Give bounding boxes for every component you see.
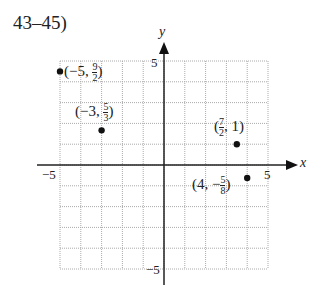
data-point — [244, 175, 250, 181]
data-point — [57, 68, 63, 74]
point-label-4: (4, −58) — [192, 175, 230, 196]
y-max-tick: 5 — [151, 55, 158, 71]
y-axis-arrow-icon — [159, 42, 169, 54]
x-max-tick: 5 — [264, 167, 271, 183]
y-min-tick: −5 — [146, 262, 160, 278]
x-min-tick: −5 — [42, 167, 56, 183]
point-label-1: (−5, 92) — [64, 62, 102, 83]
y-axis-label: y — [159, 24, 165, 40]
coordinate-plane — [0, 0, 319, 299]
point-label-3: (72, 1) — [214, 117, 244, 138]
data-point — [98, 127, 104, 133]
x-axis-arrow-icon — [286, 160, 298, 170]
x-axis-label: x — [300, 155, 306, 171]
data-point — [234, 141, 240, 147]
point-label-2: (−3, 53) — [75, 102, 113, 123]
x-axis — [37, 160, 298, 170]
